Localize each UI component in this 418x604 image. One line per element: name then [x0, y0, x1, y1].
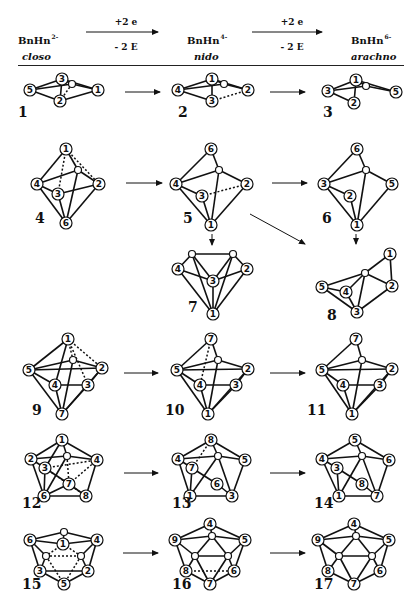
vertex-number: 2	[347, 191, 353, 201]
vertex-number: 3	[229, 491, 235, 501]
structure-number: 4	[35, 210, 45, 226]
vertex-number: 1	[208, 220, 214, 230]
vertex-number: 3	[325, 86, 331, 96]
structure-number: 5	[183, 210, 193, 226]
vertex-number: 1	[353, 75, 359, 85]
vertex-number: 4	[343, 287, 349, 297]
vertex-number: 4	[34, 179, 40, 189]
vertex-number: 7	[189, 463, 195, 473]
vertex-number: 4	[197, 380, 203, 390]
vertex-number: 3	[354, 307, 360, 317]
vertex-number: 9	[315, 535, 321, 545]
vertex-number: 7	[208, 334, 214, 344]
vertex-number: 7	[66, 479, 72, 489]
vertex-circle	[61, 529, 68, 536]
vertex-number: 4	[175, 264, 181, 274]
structure-number: 17	[314, 576, 333, 592]
vertex-circle	[221, 81, 228, 88]
vertex-number: 3	[210, 276, 216, 286]
structure-number: 9	[32, 402, 42, 418]
vertex-number: 1	[210, 309, 216, 319]
bond-dashed	[202, 184, 247, 196]
vertex-number: 3	[377, 380, 383, 390]
vertex-number: 6	[386, 455, 392, 465]
vertex-circle	[359, 357, 366, 364]
vertex-number: 2	[389, 364, 395, 374]
structure-number: 13	[172, 495, 191, 511]
vertex-number: 1	[59, 435, 65, 445]
vertex-number: 4	[94, 455, 100, 465]
bond-solid	[177, 369, 248, 370]
structure-number: 14	[314, 495, 333, 511]
bond-dashed	[45, 460, 97, 468]
structure-number: 1	[18, 104, 28, 120]
vertex-circle	[43, 553, 50, 560]
vertex-circle	[215, 357, 222, 364]
vertex-number: 9	[172, 535, 178, 545]
vertex-circle	[78, 553, 85, 560]
vertex-number: 4	[175, 85, 181, 95]
vertex-number: 8	[208, 435, 214, 445]
vertex-number: 3	[37, 566, 43, 576]
vertex-number: 7	[374, 491, 380, 501]
vertex-circle	[369, 553, 376, 560]
vertex-number: 6	[63, 218, 69, 228]
vertex-circle	[75, 167, 82, 174]
vertex-number: 3	[85, 380, 91, 390]
transformation-arrows	[123, 92, 356, 553]
structure-number: 15	[22, 576, 41, 592]
vertex-number: 1	[354, 220, 360, 230]
vertex-number: 1	[205, 409, 211, 419]
vertex-number: 1	[209, 74, 215, 84]
vertex-number: 4	[52, 380, 58, 390]
vertex-number: 5	[352, 435, 358, 445]
vertex-number: 4	[207, 519, 213, 529]
vertex-number: 8	[359, 479, 365, 489]
vertex-number: 6	[214, 479, 220, 489]
structure-number: 2	[178, 104, 188, 120]
vertex-number: 5	[174, 365, 180, 375]
bond-solid	[322, 369, 392, 370]
vertex-circle	[209, 533, 216, 540]
vertex-number: 2	[351, 98, 357, 108]
vertex-number: 8	[325, 566, 331, 576]
structure-number: 8	[327, 307, 337, 323]
vertex-number: 5	[389, 179, 395, 189]
vertex-number: 1	[349, 409, 355, 419]
vertex-circle	[363, 83, 370, 90]
bond-dashed	[58, 149, 66, 194]
vertex-number: 4	[175, 454, 181, 464]
vertex-number: 2	[245, 85, 251, 95]
vertex-number: 3	[209, 96, 215, 106]
vertex-number: 3	[321, 179, 327, 189]
vertex-number: 5	[26, 365, 32, 375]
vertex-circle	[336, 553, 343, 560]
cluster-vertices: 5312412331521423664231635214231125431524…	[23, 73, 402, 590]
structure-number: 11	[307, 402, 326, 418]
vertex-number: 6	[377, 566, 383, 576]
vertex-number: 5	[27, 85, 33, 95]
vertex-circle	[69, 81, 76, 88]
vertex-number: 5	[319, 282, 325, 292]
bond-solid	[339, 456, 362, 496]
vertex-number: 5	[242, 535, 248, 545]
vertex-number: 5	[61, 579, 67, 589]
vertex-number: 1	[95, 85, 101, 95]
vertex-number: 1	[336, 491, 342, 501]
vertex-number: 2	[245, 364, 251, 374]
vertex-circle	[362, 270, 369, 277]
vertex-number: 2	[389, 281, 395, 291]
vertex-number: 2	[99, 363, 105, 373]
vertex-number: 7	[351, 579, 357, 589]
bond-dashed	[66, 149, 99, 184]
structure-number: 12	[22, 495, 41, 511]
vertex-number: 1	[60, 539, 66, 549]
vertex-number: 5	[393, 87, 399, 97]
vertex-number: 7	[207, 579, 213, 589]
vertex-circle	[215, 453, 222, 460]
vertex-circle	[363, 167, 370, 174]
bond-solid	[62, 368, 102, 414]
vertex-circle	[359, 453, 366, 460]
vertex-number: 4	[173, 179, 179, 189]
vertex-number: 3	[334, 463, 340, 473]
